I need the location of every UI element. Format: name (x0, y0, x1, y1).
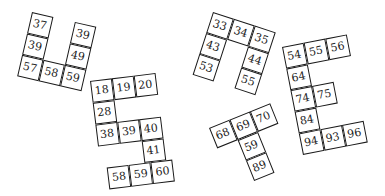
number-cell: 39 (117, 119, 142, 144)
number-cell: 40 (138, 116, 163, 141)
number-cell: 75 (311, 81, 337, 107)
number-cell: 18 (89, 78, 114, 103)
number-cell: 59 (129, 162, 154, 187)
number-cell: 19 (111, 75, 136, 100)
number-cell: 20 (133, 73, 158, 98)
number-cell: 28 (92, 100, 117, 125)
number-cell: 41 (141, 138, 166, 163)
number-cell: 56 (325, 34, 351, 60)
number-cell: 58 (107, 164, 132, 189)
number-cell: 39 (70, 21, 96, 47)
number-cell: 96 (341, 120, 367, 146)
number-cell: 60 (150, 159, 175, 184)
number-cell: 38 (95, 122, 120, 147)
